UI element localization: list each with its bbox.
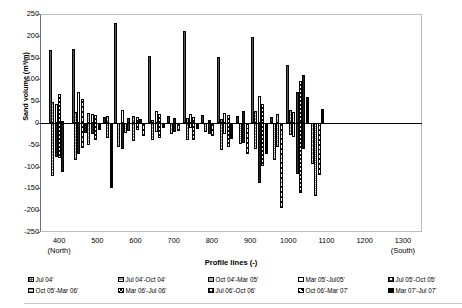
legend-label: Mar 06'-Jul 06' (126, 287, 167, 294)
y-tick-label: 0 (9, 119, 39, 126)
y-tick-label: -200 (9, 206, 39, 213)
bar (58, 123, 61, 158)
bar (276, 114, 279, 123)
bar (201, 115, 204, 123)
legend-label: Jul 04'-Oct 04' (126, 276, 166, 283)
bar (302, 123, 305, 149)
x-tick-label: 500 (77, 236, 117, 245)
bar (61, 123, 64, 172)
bar (227, 115, 230, 123)
y-tick-label: -250 (9, 228, 39, 235)
chart-legend: Jul 04'Jul 04'-Oct 04'Oct 04'-Mar 05'Mar… (24, 274, 462, 302)
x-tick-annotation: (North) (36, 246, 82, 255)
legend-swatch-solid-black (388, 288, 394, 294)
bar (81, 99, 84, 123)
bar (94, 115, 97, 123)
x-tick-label: 1100 (307, 236, 347, 245)
y-tick-label: 250 (9, 10, 39, 17)
legend-divider (24, 303, 462, 304)
bar (217, 57, 220, 123)
bar (265, 123, 268, 154)
y-tick-label: -100 (9, 163, 39, 170)
legend-label: Mar 07'-Jul 07' (396, 287, 437, 294)
bar (321, 109, 324, 123)
legend-label: Jul 04' (36, 276, 54, 283)
bar (148, 56, 151, 123)
legend-label: Oct 04'-Mar 05' (216, 276, 259, 283)
x-axis-title: Profile lines (-) (0, 258, 462, 267)
legend-swatch-hgrid-med (208, 277, 214, 283)
x-tick-label: 1300 (383, 236, 423, 245)
legend-item[interactable]: Mar 05'-Jul05' (298, 276, 345, 283)
x-tick-label: 800 (192, 236, 232, 245)
bar (142, 123, 145, 136)
bar (114, 23, 117, 123)
legend-swatch-hgrid-fine (28, 288, 34, 294)
bar (183, 31, 186, 123)
legend-item[interactable]: Jul 04'-Oct 04' (118, 276, 165, 283)
y-tick-label: -150 (9, 184, 39, 191)
legend-swatch-hgrid-dark (118, 277, 124, 283)
bar (261, 104, 264, 123)
bar (167, 116, 170, 123)
legend-item[interactable]: Oct 06'-Mar 07' (298, 287, 348, 294)
legend-item[interactable]: Mar 07'-Jul 07' (388, 287, 436, 294)
x-tick-label: 600 (116, 236, 156, 245)
bar (110, 123, 113, 188)
bar (246, 123, 249, 154)
bar (306, 97, 309, 123)
legend-swatch-checker-dot (208, 288, 214, 294)
bar (242, 111, 245, 123)
y-tick-mark (37, 232, 41, 233)
y-tick-label: -50 (9, 141, 39, 148)
bar (106, 116, 109, 123)
x-tick-annotation: (South) (380, 246, 426, 255)
legend-item[interactable]: Jul 06'-Oct 06' (208, 287, 255, 294)
zero-baseline (40, 123, 422, 124)
legend-swatch-checker-light (388, 277, 394, 283)
legend-swatch-checker-dark (28, 277, 34, 283)
legend-item[interactable]: Oct 04'-Mar 05' (208, 276, 258, 283)
y-tick-label: 150 (9, 54, 39, 61)
bar (158, 114, 161, 123)
legend-label: Mar 05'-Jul05' (306, 276, 345, 283)
x-tick-label: 1000 (268, 236, 308, 245)
y-tick-label: 50 (9, 97, 39, 104)
bar (121, 110, 124, 123)
legend-swatch-open (298, 277, 304, 283)
legend-label: Oct 06'-Mar 07' (306, 287, 349, 294)
legend-item[interactable]: Mar 06'-Jul 06' (118, 287, 166, 294)
legend-item[interactable]: Oct 05'-Mar 06' (28, 287, 78, 294)
legend-label: Jul 06'-Oct 06' (216, 287, 256, 294)
bar (280, 123, 283, 208)
bar (230, 123, 233, 139)
bar (236, 116, 239, 123)
x-tick-label: 400 (39, 236, 79, 245)
plot-area (40, 14, 422, 232)
legend-item[interactable]: Jul 04' (28, 276, 54, 283)
bar (318, 123, 321, 175)
legend-item[interactable]: Jul 05'-Oct 05' (388, 276, 435, 283)
bar (58, 94, 61, 123)
bar (251, 37, 254, 123)
legend-swatch-diag (298, 288, 304, 294)
x-tick-label: 700 (154, 236, 194, 245)
legend-label: Oct 05'-Mar 06' (36, 287, 79, 294)
y-tick-label: 100 (9, 75, 39, 82)
legend-label: Jul 05'-Oct 05' (396, 276, 436, 283)
y-tick-label: 200 (9, 32, 39, 39)
chart-figure: Sand volume (m³/m) 250200150100500-50-10… (0, 0, 462, 308)
bar (211, 123, 214, 136)
x-tick-label: 900 (230, 236, 270, 245)
x-tick-label: 1200 (345, 236, 385, 245)
legend-swatch-zigzag (118, 288, 124, 294)
